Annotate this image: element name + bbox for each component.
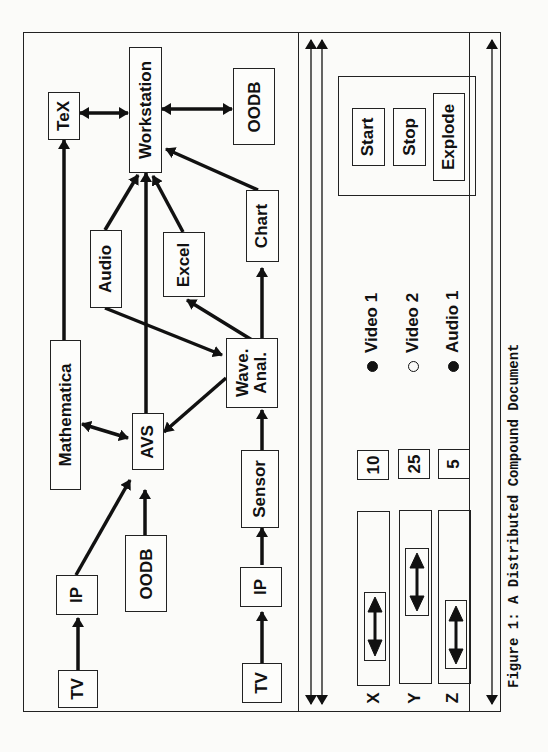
node-oodb-1[interactable]: OODB: [125, 535, 167, 612]
node-mathematica[interactable]: Mathematica: [50, 340, 81, 490]
z-value-field[interactable]: 5: [438, 449, 470, 479]
node-tv-2[interactable]: TV: [242, 663, 282, 703]
x-value-field[interactable]: 10: [357, 450, 389, 480]
stop-button[interactable]: Stop: [393, 108, 426, 166]
node-excel[interactable]: Excel: [163, 232, 205, 297]
axis-label-z: Z: [443, 693, 463, 703]
node-sensor[interactable]: Sensor: [241, 450, 279, 528]
node-oodb-2[interactable]: OODB: [233, 68, 275, 145]
y-slider-thumb[interactable]: [405, 548, 429, 616]
panel-divider: [298, 32, 299, 712]
figure-caption: Figure 1: A Distributed Compound Documen…: [506, 344, 522, 688]
channel-video-1[interactable]: Video 1: [362, 293, 382, 372]
node-avs[interactable]: AVS: [132, 413, 164, 470]
node-workstation[interactable]: Workstation: [129, 47, 162, 173]
node-audio[interactable]: Audio: [90, 230, 122, 308]
channel-video-2[interactable]: Video 2: [403, 293, 423, 372]
radio-unselected-icon: [408, 361, 419, 372]
node-wave-analysis[interactable]: Wave. Anal.: [226, 338, 278, 408]
channel-audio-1[interactable]: Audio 1: [443, 291, 463, 372]
node-ip-1[interactable]: IP: [56, 575, 98, 615]
node-tex[interactable]: TeX: [48, 92, 80, 140]
radio-selected-icon: [448, 361, 459, 372]
x-slider-thumb[interactable]: [364, 592, 386, 661]
axis-label-y: Y: [405, 692, 425, 703]
y-value-field[interactable]: 25: [398, 449, 430, 479]
node-ip-2[interactable]: IP: [240, 567, 282, 607]
explode-button[interactable]: Explode: [433, 93, 465, 181]
axis-label-x: X: [364, 692, 384, 703]
start-button[interactable]: Start: [352, 108, 385, 166]
node-tv-1[interactable]: TV: [58, 670, 98, 708]
z-slider-thumb[interactable]: [445, 600, 467, 669]
node-chart[interactable]: Chart: [246, 190, 279, 262]
radio-selected-icon: [367, 361, 378, 372]
